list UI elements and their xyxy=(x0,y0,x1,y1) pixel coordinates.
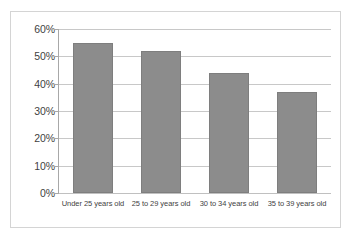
y-axis-tick-label: 10% xyxy=(34,160,55,172)
bar[interactable] xyxy=(209,73,249,193)
y-axis-tick-label: 60% xyxy=(34,23,55,35)
y-axis-tick-mark xyxy=(54,193,59,194)
bar[interactable] xyxy=(277,92,317,193)
x-axis-category-label: Under 25 years old xyxy=(62,199,124,208)
y-axis-tick-label: 50% xyxy=(34,50,55,62)
gridline xyxy=(59,193,331,194)
bar-slot xyxy=(127,29,195,193)
y-axis-tick-labels: 0%10%20%30%40%50%60% xyxy=(17,29,55,193)
x-axis-category-label: 35 to 39 years old xyxy=(268,199,327,208)
bar-slot xyxy=(59,29,127,193)
bar[interactable] xyxy=(73,43,113,193)
bar-slot xyxy=(263,29,331,193)
bar-slot xyxy=(195,29,263,193)
y-axis-tick-label: 20% xyxy=(34,132,55,144)
x-axis-category-label: 30 to 34 years old xyxy=(200,199,259,208)
plot-area xyxy=(59,29,331,193)
y-axis-tick-label: 40% xyxy=(34,78,55,90)
chart-frame: 0%10%20%30%40%50%60% Under 25 years old2… xyxy=(10,11,341,228)
y-axis-tick-label: 0% xyxy=(40,187,55,199)
x-axis-category-label: 25 to 29 years old xyxy=(132,199,191,208)
x-axis-category-labels: Under 25 years old25 to 29 years old30 t… xyxy=(59,199,331,215)
bars-layer xyxy=(59,29,331,193)
chart-plot-wrapper: 0%10%20%30%40%50%60% Under 25 years old2… xyxy=(11,12,340,227)
bar[interactable] xyxy=(141,51,181,193)
y-axis-tick-label: 30% xyxy=(34,105,55,117)
